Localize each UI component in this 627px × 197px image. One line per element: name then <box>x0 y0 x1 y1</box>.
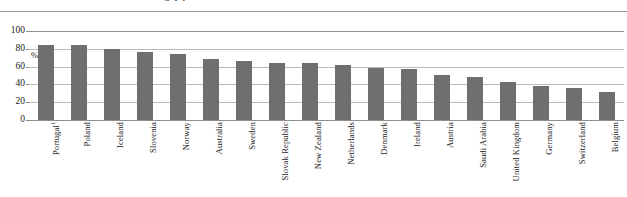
gridline-0 <box>29 120 624 121</box>
bar <box>335 65 351 120</box>
bar <box>500 82 516 120</box>
bar <box>599 92 615 120</box>
y-tick-mark-0 <box>26 120 29 121</box>
y-tick-label-60: 60 <box>1 62 25 72</box>
bar <box>137 52 153 120</box>
x-axis-labels: Portugal1PolandIcelandSloveniaNorwayAust… <box>29 122 624 197</box>
bar <box>269 63 285 120</box>
bar <box>302 63 318 120</box>
bar <box>368 68 384 121</box>
x-axis-tick-label: Portugal1 <box>50 122 60 155</box>
x-axis-tick-label: Poland <box>83 122 92 146</box>
x-axis-tick-label: Saudi Arabia <box>479 122 488 168</box>
y-tick-label-100: 100 <box>1 26 25 36</box>
y-tick-mark-100 <box>26 31 29 32</box>
x-axis-tick-label: Sweden <box>248 122 257 150</box>
y-tick-mark-40 <box>26 84 29 85</box>
bar <box>203 59 219 120</box>
bar <box>38 45 54 120</box>
bar <box>566 88 582 120</box>
bar <box>434 75 450 120</box>
y-tick-mark-80 <box>26 49 29 50</box>
y-tick-mark-60 <box>26 67 29 68</box>
y-tick-label-20: 20 <box>1 97 25 107</box>
x-axis-tick-label: Denmark <box>380 122 389 155</box>
x-axis-tick-label: Germany <box>545 122 554 155</box>
gridline-100 <box>29 31 624 32</box>
x-axis-tick-label: Slovenia <box>149 122 158 153</box>
x-axis-tick-label: United Kingdom <box>512 122 521 181</box>
bar <box>533 86 549 120</box>
y-tick-label-80: 80 <box>1 44 25 54</box>
x-axis-tick-label: Netherlands <box>347 122 356 165</box>
bar <box>401 69 417 120</box>
y-tick-mark-20 <box>26 102 29 103</box>
bar <box>467 77 483 120</box>
x-axis-tick-label: Belgium <box>611 122 620 152</box>
title-remnant-strip: fy y p <box>0 0 627 10</box>
plot-area: % 020406080100 <box>29 31 624 120</box>
x-axis-tick-label: Ireland <box>413 122 422 147</box>
x-axis-tick-label: Iceland <box>116 122 125 148</box>
x-axis-tick-label: Slovak Republic <box>281 122 290 181</box>
x-axis-tick-label: Australia <box>215 122 224 154</box>
x-axis-tick-label: Norway <box>182 122 191 150</box>
bar <box>104 49 120 120</box>
y-tick-label-0: 0 <box>1 115 25 125</box>
x-axis-tick-label: Austria <box>446 122 455 148</box>
bar <box>236 61 252 120</box>
top-rule-divider <box>0 11 627 12</box>
x-axis-tick-label: New Zealand <box>314 122 323 169</box>
figure-bar-chart: fy y p % 020406080100 Portugal1PolandIce… <box>0 0 627 197</box>
chart-title-remnant: fy y p <box>165 0 189 1</box>
x-axis-tick-label: Switzerland <box>578 122 587 164</box>
bar <box>170 54 186 120</box>
y-tick-label-40: 40 <box>1 79 25 89</box>
bar <box>71 45 87 120</box>
